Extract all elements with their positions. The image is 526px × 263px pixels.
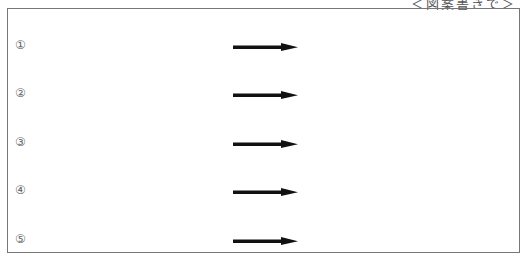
row-number: ① [15, 38, 26, 52]
right-arrow-icon [233, 188, 298, 196]
answer-row-2: ② [8, 87, 519, 101]
right-arrow-icon [233, 237, 298, 245]
row-number: ② [15, 86, 26, 100]
answer-row-5: ⑤ [8, 233, 519, 247]
answer-frame: ① ② ③ ④ ⑤ [7, 8, 520, 253]
row-number: ⑤ [15, 232, 26, 246]
right-arrow-icon [233, 140, 298, 148]
right-arrow-icon [233, 91, 298, 99]
answer-row-4: ④ [8, 184, 519, 198]
row-number: ④ [15, 183, 26, 197]
answer-row-3: ③ [8, 136, 519, 150]
row-number: ③ [15, 135, 26, 149]
answer-row-1: ① [8, 39, 519, 53]
right-arrow-icon [233, 43, 298, 51]
